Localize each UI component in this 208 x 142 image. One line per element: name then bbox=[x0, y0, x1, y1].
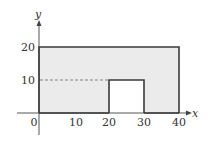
x-tick-10: 10 bbox=[69, 116, 83, 129]
y-axis-label: y bbox=[34, 8, 42, 21]
x-tick-20: 20 bbox=[102, 116, 116, 129]
y-tick-10: 10 bbox=[21, 74, 35, 87]
x-axis-label: x bbox=[192, 107, 199, 120]
x-tick-0: 0 bbox=[31, 116, 38, 129]
region-diagram: y x 20 10 0 10 20 30 40 bbox=[0, 0, 208, 142]
x-tick-40: 40 bbox=[172, 116, 186, 129]
y-tick-20: 20 bbox=[21, 41, 35, 54]
x-tick-30: 30 bbox=[137, 116, 151, 129]
